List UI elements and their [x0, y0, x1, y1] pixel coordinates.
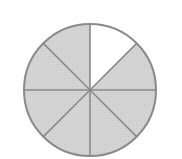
fraction-diagram — [0, 0, 182, 159]
fraction-circle — [0, 0, 182, 159]
